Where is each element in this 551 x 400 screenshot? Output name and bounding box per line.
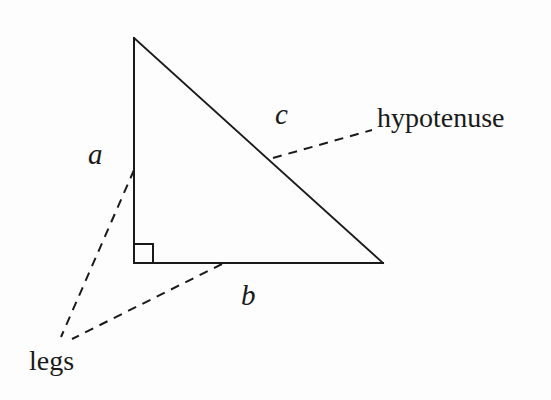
- triangle-diagram-svg: [0, 0, 551, 400]
- legs-annotation-label: legs: [29, 347, 74, 375]
- hypotenuse-side-label: c: [275, 100, 288, 129]
- hypotenuse-line: [134, 38, 383, 263]
- right-triangle: [134, 38, 383, 263]
- leader-lines: [61, 130, 372, 339]
- leg-a-leader-line: [61, 170, 134, 337]
- leg-a-label: a: [88, 140, 103, 169]
- leg-b-label: b: [241, 281, 256, 310]
- leg-b-leader-line: [72, 264, 222, 339]
- hypotenuse-annotation-label: hypotenuse: [377, 104, 505, 132]
- hypotenuse-leader-line: [273, 130, 372, 158]
- right-angle-marker-icon: [134, 244, 153, 263]
- figure-canvas: a b c hypotenuse legs: [0, 0, 551, 400]
